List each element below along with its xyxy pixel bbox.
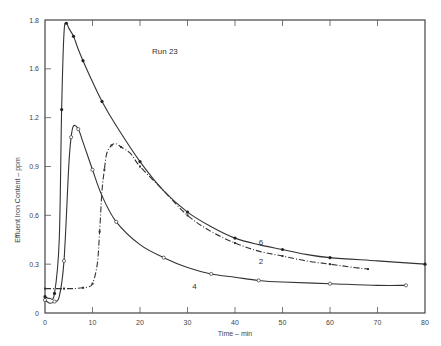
data-point	[328, 282, 331, 285]
data-point	[63, 288, 65, 290]
y-tick-label: 1.2	[29, 114, 39, 121]
data-point	[115, 220, 118, 223]
data-point	[100, 100, 103, 103]
x-tick-label: 80	[421, 319, 429, 326]
data-point	[103, 169, 105, 171]
y-tick-label: 0.3	[29, 261, 39, 268]
data-point	[187, 214, 189, 216]
y-axis: 00.30.60.91.21.61.8	[29, 17, 51, 317]
series-line	[45, 23, 425, 299]
y-tick-label: 0.6	[29, 212, 39, 219]
x-tick-label: 20	[136, 319, 144, 326]
data-point	[81, 59, 84, 62]
data-point	[43, 298, 46, 301]
data-point	[139, 166, 141, 168]
data-point	[53, 292, 56, 295]
data-point	[423, 263, 426, 266]
series-line	[45, 125, 406, 303]
data-point	[186, 210, 189, 213]
data-point	[162, 256, 165, 259]
data-point	[70, 136, 73, 139]
data-point	[404, 284, 407, 287]
data-point	[60, 108, 63, 111]
data-point	[282, 255, 284, 257]
data-point	[281, 248, 284, 251]
x-tick-label: 60	[326, 319, 334, 326]
x-tick-label: 0	[43, 319, 47, 326]
series-2	[44, 144, 369, 290]
data-point	[92, 283, 94, 285]
data-point	[43, 295, 46, 298]
data-point	[328, 256, 331, 259]
series-line	[45, 144, 368, 289]
series-group	[43, 22, 426, 304]
series-6	[43, 22, 426, 300]
data-point	[367, 268, 369, 270]
curve-label-4: 4	[192, 282, 197, 291]
chart: 01020304050607080 00.30.60.91.21.61.8 62…	[0, 0, 441, 346]
data-point	[210, 272, 213, 275]
data-point	[91, 168, 94, 171]
y-axis-title: Effluent Iron Content – ppm	[14, 157, 22, 243]
x-axis: 01020304050607080	[43, 20, 429, 326]
data-point	[44, 288, 46, 290]
data-point	[138, 160, 141, 163]
y-tick-label: 1.8	[29, 17, 39, 24]
data-point	[53, 300, 56, 303]
x-tick-label: 10	[89, 319, 97, 326]
data-point	[329, 263, 331, 265]
data-point	[111, 144, 113, 146]
x-tick-label: 40	[231, 319, 239, 326]
curve-labels: 624	[192, 238, 264, 291]
data-point	[65, 22, 68, 25]
data-point	[233, 237, 236, 240]
data-point	[77, 127, 80, 130]
x-tick-label: 30	[184, 319, 192, 326]
y-tick-label: 0.9	[29, 163, 39, 170]
series-4	[43, 125, 407, 303]
run-annotation: Run 23	[152, 47, 178, 56]
data-point	[99, 231, 101, 233]
data-point	[82, 287, 84, 289]
x-tick-label: 50	[279, 319, 287, 326]
data-point	[120, 146, 122, 148]
data-point	[234, 242, 236, 244]
curve-label-2: 2	[259, 257, 264, 266]
data-point	[257, 279, 260, 282]
data-point	[72, 35, 75, 38]
y-tick-label: 1.6	[29, 65, 39, 72]
x-tick-label: 70	[374, 319, 382, 326]
curve-label-6: 6	[259, 238, 264, 247]
data-point	[62, 259, 65, 262]
x-axis-title: Time – min	[218, 330, 252, 337]
y-tick-label: 0	[35, 310, 39, 317]
